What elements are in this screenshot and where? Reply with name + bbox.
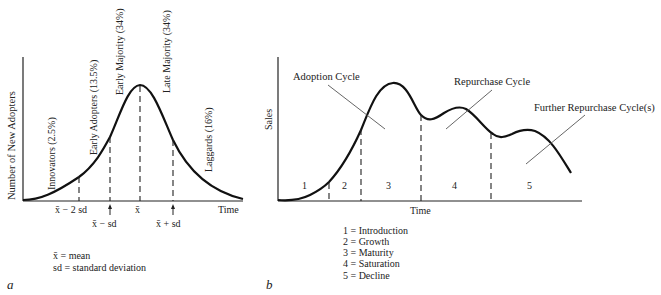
tick-label-plus1sd: x̄ + sd [156,218,181,229]
legend-stage-5: 5 = Decline [343,270,390,281]
stage-number-5: 5 [527,180,532,191]
panel-b-x-axis-label: Time [410,205,431,216]
legend-stage-3: 3 = Maturity [343,247,394,258]
arrow-up-icon [171,204,175,215]
panel-b-product-life-cycle: Sales Time 1 2 3 4 5 Adoption Cycle Repu… [263,57,655,292]
tick-label-minus2sd: x̄ − 2 sd [55,204,87,215]
tick-label-minus1sd: x̄ − sd [92,218,117,229]
leader-line-further-repurchase [526,115,585,164]
annotation-adoption-cycle: Adoption Cycle [293,71,360,82]
stage-number-1: 1 [302,180,307,191]
legend-mean: x̄ = mean [53,250,90,261]
segment-label-innovators: Innovators (2.5%) [46,117,58,190]
panel-a-x-axis-label: Time [218,204,239,215]
segment-label-late-majority: Late Majority (34%) [161,10,173,93]
arrow-up-icon [108,204,112,215]
panel-b-y-axis-label: Sales [263,109,274,130]
legend-stage-2: 2 = Growth [343,236,389,247]
panel-letter-b: b [266,277,273,292]
panel-a-adoption-curve: Number of New Adopters Innovators (2.5%)… [6,8,243,292]
legend-sd: sd = standard deviation [53,262,146,273]
segment-label-early-majority: Early Majority (34%) [114,8,126,95]
legend-stage-4: 4 = Saturation [343,258,400,269]
segment-label-laggards: Laggards (16%) [203,107,215,172]
stage-number-3: 3 [386,180,391,191]
stage-number-2: 2 [342,180,347,191]
legend-stage-1: 1 = Introduction [343,225,408,236]
stage-number-4: 4 [452,180,457,191]
annotation-further-repurchase: Further Repurchase Cycle(s) [534,102,655,114]
segment-label-early-adopters: Early Adopters (13.5%) [88,60,100,155]
panel-letter-a: a [7,277,14,292]
panel-a-y-axis-label: Number of New Adopters [6,91,17,200]
leader-line-adoption [328,85,385,129]
tick-label-mean: x̄ [135,204,140,215]
annotation-repurchase-cycle: Repurchase Cycle [454,76,530,87]
figure: Number of New Adopters Innovators (2.5%)… [0,0,661,295]
